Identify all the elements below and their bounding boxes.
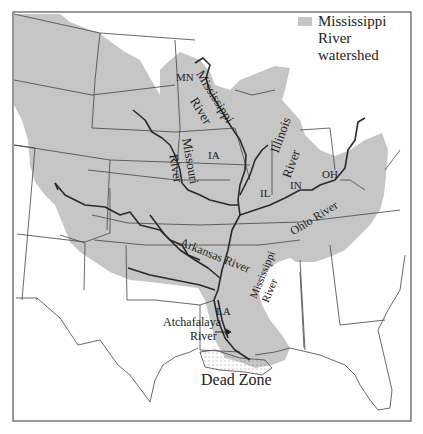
river-label-atchafalaya-1: Atchafalaya: [163, 316, 221, 328]
legend-swatch-watershed: [298, 17, 312, 26]
dead-zone-label: Dead Zone: [201, 372, 272, 388]
watershed-map: [0, 0, 423, 434]
legend-line-2: watershed: [318, 47, 423, 64]
state-label-ia: IA: [208, 150, 220, 161]
legend: Mississippi River watershed: [298, 13, 423, 64]
legend-label: Mississippi River watershed: [318, 13, 423, 64]
state-label-il: IL: [260, 188, 270, 199]
state-label-in: IN: [290, 180, 302, 191]
state-label-mn: MN: [176, 72, 194, 83]
river-label-atchafalaya-2: River: [190, 330, 217, 342]
state-label-oh: OH: [322, 169, 338, 180]
legend-line-1: Mississippi River: [318, 13, 423, 47]
